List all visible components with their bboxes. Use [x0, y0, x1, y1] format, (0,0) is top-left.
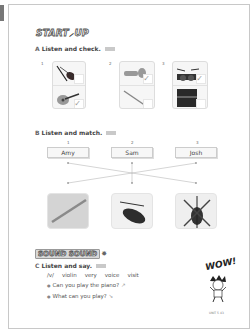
sentence-2-text: What can you play? [53, 293, 107, 299]
violin-crossed-icon [176, 194, 217, 229]
wow-text: WOW! [204, 256, 237, 272]
option-piano[interactable] [173, 86, 207, 109]
logo-up-text: UP [74, 28, 89, 38]
check-card-3: ✓ [172, 61, 208, 109]
page-number: UNIT 5 43 [209, 311, 224, 315]
check-mark-icon: ✓ [74, 99, 81, 108]
rising-intonation-icon: ↗ [119, 282, 125, 288]
check-card-2: ✓ [119, 61, 155, 109]
section-a-heading: A Listen and check. [35, 45, 115, 52]
check-mark-icon: ✓ [196, 74, 203, 83]
audio-track-icon [106, 131, 116, 135]
bullet-icon: ● [47, 294, 51, 299]
option-trumpet[interactable]: ✓ [120, 62, 154, 86]
section-a-title: Listen and check. [42, 45, 101, 52]
name-box-josh: Josh [175, 147, 217, 158]
audio-track-icon [105, 47, 115, 51]
textbook-page: START⸝UP A Listen and check. 1 ✓ 2 [8, 4, 250, 329]
option-flute[interactable] [120, 86, 154, 109]
section-c-title: Listen and say. [41, 262, 92, 269]
bullet-icon: ● [47, 283, 51, 288]
option-drums[interactable]: ✓ [173, 62, 207, 86]
option-guitar[interactable]: ✓ [53, 86, 85, 109]
word-very: very [85, 272, 97, 278]
section-b-heading: B Listen and match. [35, 129, 116, 136]
sentence-2: ●What can you play? ↘ [47, 293, 113, 299]
phoneme: /v/ [47, 272, 54, 278]
match-number-2: 2 [131, 140, 134, 145]
sentence-1: ●Can you play the piano? ↗ [47, 282, 126, 288]
side-tab [0, 5, 4, 21]
checkbox-guitar[interactable]: ✓ [74, 99, 84, 109]
section-b-letter: B [35, 129, 40, 136]
flute-icon [48, 194, 89, 229]
picture-violin-crossed [175, 193, 217, 229]
audio-track-icon [96, 264, 106, 268]
item-number-3: 3 [162, 61, 165, 66]
logo-start-text: START [36, 28, 69, 38]
match-number-1: 1 [67, 140, 70, 145]
checkbox-piano[interactable] [196, 99, 206, 109]
checkbox-violin[interactable] [74, 74, 84, 84]
sentence-1-text: Can you play the piano? [53, 282, 120, 288]
sound-sound-logo: SOUND SOUND ✸ [35, 249, 107, 259]
option-violin[interactable] [53, 62, 85, 86]
character-illustration [207, 275, 229, 303]
starburst-icon: ✸ [101, 250, 107, 258]
name-box-amy: Amy [47, 147, 89, 158]
check-card-1: ✓ [52, 61, 86, 109]
section-c-heading: C Listen and say. [35, 262, 106, 269]
checkbox-flute[interactable] [143, 99, 153, 109]
picture-flute [47, 193, 89, 229]
start-up-logo: START⸝UP [36, 26, 89, 39]
word-voice: voice [105, 272, 120, 278]
item-number-2: 2 [109, 61, 112, 66]
name-box-sam: Sam [111, 147, 153, 158]
phonics-word-row: /v/ violin very voice visit [47, 272, 139, 278]
picture-violin [111, 193, 153, 229]
match-lines[interactable] [39, 161, 219, 187]
section-b-title: Listen and match. [42, 129, 103, 136]
word-visit: visit [127, 272, 138, 278]
word-violin: violin [62, 272, 77, 278]
violin-icon [112, 194, 153, 229]
section-a-letter: A [35, 45, 40, 52]
item-number-1: 1 [41, 61, 44, 66]
sound-sound-text: SOUND SOUND [35, 249, 100, 259]
match-number-3: 3 [196, 140, 199, 145]
check-mark-icon: ✓ [143, 74, 150, 83]
falling-intonation-icon: ↘ [107, 293, 113, 299]
checkbox-trumpet[interactable]: ✓ [143, 74, 153, 84]
checkbox-drums[interactable]: ✓ [196, 74, 206, 84]
section-c-letter: C [35, 262, 39, 269]
